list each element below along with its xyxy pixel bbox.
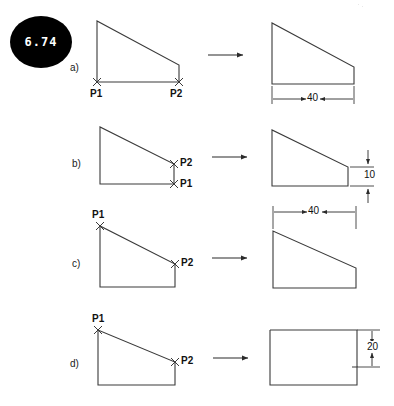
shape-b-result (272, 130, 348, 186)
shape-c-source (100, 226, 175, 287)
shape-d-source (98, 330, 175, 385)
shape-c-result (273, 231, 356, 288)
row-label-d: d) (70, 358, 79, 369)
dimension-value-d-20: 20 (366, 341, 379, 352)
point-label-a-p1: P1 (90, 88, 102, 99)
scan-artifact (362, 6, 363, 7)
row-label-a: a) (70, 62, 79, 73)
row-label-c: c) (72, 258, 80, 269)
problem-number-text: 6.74 (25, 36, 58, 48)
shape-a-source (97, 21, 179, 82)
point-label-b-p1: P1 (180, 178, 192, 189)
point-label-c-p1: P1 (92, 209, 104, 220)
point-label-d-p2: P2 (181, 355, 193, 366)
point-label-c-p2: P2 (181, 257, 193, 268)
row-label-b: b) (72, 158, 81, 169)
point-label-a-p2: P2 (170, 88, 182, 99)
dimension-value-a-40: 40 (306, 92, 319, 103)
problem-number-badge: 6.74 (10, 16, 72, 68)
scan-artifact (358, 4, 359, 5)
figure-sheet: 6.74 a) b) c) d) P1 P2 P2 P1 P1 P2 P1 P2… (0, 0, 394, 406)
shape-b-source (100, 127, 174, 184)
dimension-value-b-10: 10 (363, 169, 376, 180)
shape-a-result (272, 23, 354, 84)
dimension-value-c-40: 40 (307, 205, 320, 216)
point-label-b-p2: P2 (180, 157, 192, 168)
point-label-d-p1: P1 (92, 313, 104, 324)
shape-d-result (270, 330, 357, 385)
